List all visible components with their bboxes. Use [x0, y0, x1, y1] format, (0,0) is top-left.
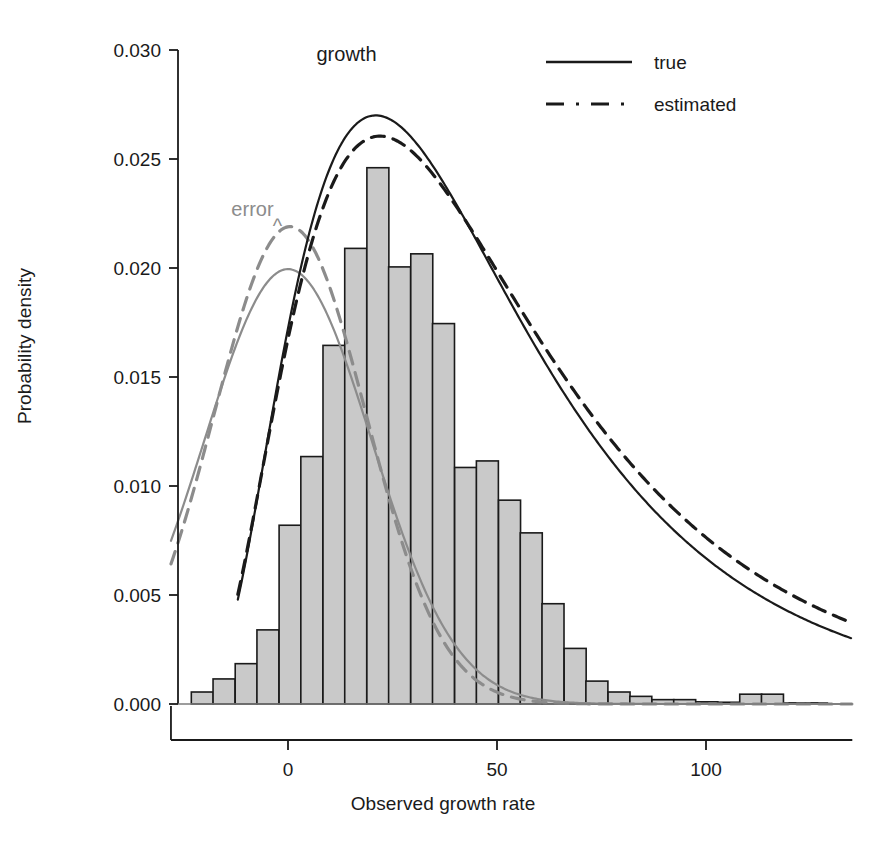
annotations: growtherror^	[231, 43, 376, 237]
y-axis-label: Probability density	[14, 268, 36, 424]
histogram-bar	[235, 664, 257, 704]
histogram-bar	[191, 692, 213, 704]
histogram-bar	[433, 324, 455, 704]
histogram-bar	[279, 525, 301, 704]
histogram-bar	[608, 692, 630, 704]
x-tick-label: 100	[690, 759, 722, 780]
histogram-bar	[257, 630, 279, 704]
y-tick-label: 0.020	[113, 258, 161, 279]
histogram-bar	[411, 254, 433, 704]
x-tick-label: 50	[486, 759, 507, 780]
legend-label-estimated: estimated	[654, 94, 736, 115]
y-tick-label: 0.005	[113, 585, 161, 606]
histogram-bar	[389, 267, 411, 704]
y-tick-label: 0.000	[113, 694, 161, 715]
figure-caption	[0, 848, 886, 859]
x-axis-label: Observed growth rate	[0, 793, 886, 815]
x-tick-label: 0	[283, 759, 294, 780]
histogram-bar	[301, 457, 323, 704]
figure-container: 0.0000.0050.0100.0150.0200.0250.03005010…	[0, 0, 886, 859]
annotation-growth: growth	[317, 43, 377, 65]
histogram-bar	[564, 648, 586, 704]
legend: trueestimated	[546, 52, 736, 115]
y-tick-label: 0.015	[113, 367, 161, 388]
legend-label-true: true	[654, 52, 687, 73]
y-tick-label: 0.010	[113, 476, 161, 497]
chart-canvas: 0.0000.0050.0100.0150.0200.0250.03005010…	[0, 0, 886, 859]
y-tick-label: 0.030	[113, 40, 161, 61]
histogram-bar	[213, 679, 235, 704]
y-tick-label: 0.025	[113, 149, 161, 170]
histogram-bar	[520, 533, 542, 704]
histogram-bar	[345, 248, 367, 704]
histogram-bar	[476, 461, 498, 704]
histogram-bar	[586, 681, 608, 704]
histogram-bar	[542, 604, 564, 704]
histogram-bar	[323, 345, 345, 704]
histogram-bars	[191, 168, 827, 704]
annotation-error: error	[231, 198, 274, 220]
histogram-bar	[499, 500, 521, 704]
annotation-error-caret: ^	[273, 215, 283, 237]
